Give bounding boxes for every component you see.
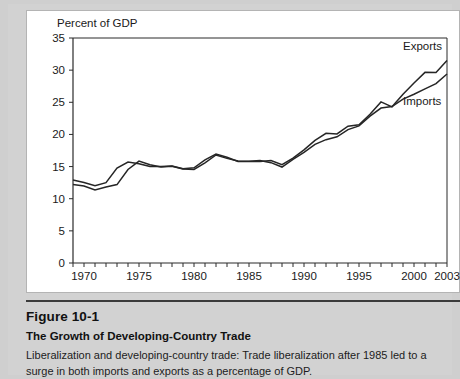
figure-caption: Figure 10-1 The Growth of Developing-Cou… xyxy=(26,300,460,379)
chart-inner: Percent of GDP 0510152025303519701975198… xyxy=(27,11,459,292)
figure-title: The Growth of Developing-Country Trade xyxy=(26,330,460,342)
figure-description: Liberalization and developing-country tr… xyxy=(26,348,450,379)
x-tick-label: 1990 xyxy=(291,270,317,282)
y-tick-label: 30 xyxy=(52,64,65,76)
x-tick-label: 2003 xyxy=(434,270,460,282)
x-tick-label: 1980 xyxy=(181,270,207,282)
series-label-imports: Imports xyxy=(403,95,442,107)
figure-number: Figure 10-1 xyxy=(26,309,460,324)
x-tick-label: 1995 xyxy=(346,270,372,282)
y-tick-label: 15 xyxy=(52,161,65,173)
x-tick-label: 1970 xyxy=(71,270,97,282)
series-line-imports xyxy=(73,74,447,190)
y-tick-label: 25 xyxy=(52,96,65,108)
y-tick-label: 10 xyxy=(52,193,65,205)
y-tick-label: 5 xyxy=(59,225,65,237)
x-tick-label: 1975 xyxy=(126,270,152,282)
line-chart-svg: 0510152025303519701975198019851990199520… xyxy=(27,11,460,294)
y-tick-label: 0 xyxy=(59,257,65,269)
figure-plate: Percent of GDP 0510152025303519701975198… xyxy=(8,4,452,375)
x-tick-label: 2000 xyxy=(401,270,427,282)
y-tick-label: 35 xyxy=(52,32,65,44)
chart-panel: Percent of GDP 0510152025303519701975198… xyxy=(26,10,460,293)
figure-root: Percent of GDP 0510152025303519701975198… xyxy=(0,0,460,379)
y-tick-label: 20 xyxy=(52,128,65,140)
caption-divider xyxy=(26,300,460,302)
series-label-exports: Exports xyxy=(403,40,442,52)
series-line-exports xyxy=(73,61,447,186)
x-tick-label: 1985 xyxy=(236,270,262,282)
